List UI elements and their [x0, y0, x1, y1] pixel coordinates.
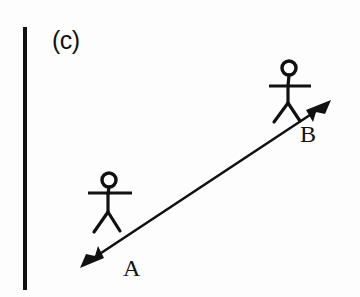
stick-figure-a-leg-right [108, 212, 120, 231]
stick-figure-a-leg-left [94, 212, 108, 232]
arrowhead-b-icon [306, 100, 331, 122]
point-label-a: A [123, 256, 140, 280]
displacement-arrow-shaft [92, 109, 319, 259]
stick-figure-b-leg-left [274, 103, 288, 122]
figure-panel-c: (c) A B [0, 0, 360, 297]
stick-figure-b-head [282, 61, 296, 75]
stick-figure-at-b [269, 61, 311, 122]
arrowhead-a-icon [80, 246, 104, 268]
stick-figure-b-neck [288, 75, 289, 86]
panel-label: (c) [52, 28, 80, 53]
stick-figure-b-leg-right [288, 103, 300, 121]
stick-figure-at-a [88, 173, 132, 232]
point-label-b: B [300, 122, 316, 146]
stick-figure-a-head [102, 173, 116, 187]
